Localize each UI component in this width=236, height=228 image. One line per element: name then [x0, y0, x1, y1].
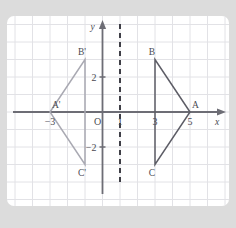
vertex-label-C-prime: C': [78, 168, 86, 178]
vertex-label-C: C: [149, 168, 155, 178]
x-axis-name: x: [214, 117, 220, 127]
vertex-label-B: B: [149, 47, 155, 57]
coordinate-plane-card: xy2−2−3135OABCA'B'C': [7, 16, 229, 206]
figure-screenshot: xy2−2−3135OABCA'B'C': [0, 0, 236, 228]
x-tick-label: 1: [118, 116, 123, 127]
vertex-label-B-prime: B': [78, 47, 86, 57]
y-tick-label: 2: [92, 72, 97, 83]
y-tick-label: −2: [86, 142, 97, 153]
labels: xy2−2−3135OABCA'B'C': [45, 22, 220, 178]
grid-lines: [7, 16, 229, 206]
x-tick-label: 5: [188, 116, 193, 127]
x-tick-label: 3: [153, 116, 158, 127]
vertex-label-A: A: [192, 100, 199, 110]
coordinate-plane-svg: xy2−2−3135OABCA'B'C': [7, 16, 229, 206]
watermark-text: [20, 208, 216, 220]
y-axis-name: y: [89, 22, 95, 32]
vertex-label-A-prime: A': [52, 100, 61, 110]
origin-label: O: [94, 116, 101, 127]
x-tick-label: −3: [45, 116, 56, 127]
